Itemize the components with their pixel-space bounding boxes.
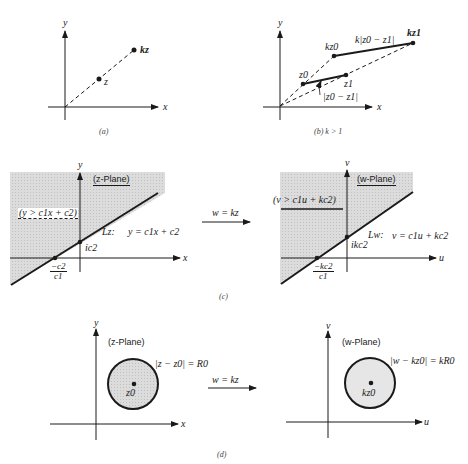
axis-label-x: x — [377, 102, 381, 112]
point-kz — [132, 48, 137, 53]
axis-label-y: y — [278, 18, 282, 28]
axis-label-u: u — [424, 417, 429, 427]
label-ikc2: ikc2 — [351, 240, 368, 250]
line-name-Lz: Lz: — [102, 227, 115, 237]
axis-label-x: x — [183, 253, 187, 263]
label-ic2: ic2 — [85, 243, 97, 253]
point-u-intercept — [315, 256, 320, 261]
region-label-w: (v > c1u + kc2) — [273, 195, 336, 205]
label-center-z0: z0 — [126, 388, 135, 398]
panel-d-right — [286, 331, 422, 438]
point-kz1 — [411, 41, 416, 46]
line-equation-w: v = c1u + kc2 — [392, 231, 448, 241]
label-u-intercept: −kc2 c1 — [313, 262, 334, 282]
label-length: |z0 − z1| — [323, 92, 358, 102]
map-label-c: w = kz — [212, 208, 239, 218]
axis-label-y: y — [94, 318, 98, 328]
point-z0 — [301, 82, 306, 87]
label-z: z — [104, 77, 108, 87]
plane-label-z: (z-Plane) — [93, 175, 130, 186]
point-z1 — [344, 73, 349, 78]
plane-label-w: (w-Plane) — [342, 338, 381, 347]
axis-label-y: y — [63, 18, 67, 28]
center-z0 — [132, 382, 137, 387]
center-kz0 — [369, 381, 374, 386]
caption-d: (d) — [217, 450, 226, 459]
axis-label-y: y — [78, 160, 82, 170]
point-ic2 — [78, 240, 83, 245]
region-label-z: (y > c1x + c2) — [18, 208, 78, 219]
axis-label-x: x — [163, 102, 167, 112]
label-center-kz0: kz0 — [362, 388, 375, 398]
axis-label-v: v — [326, 321, 330, 331]
line-equation-z: y = c1x + c2 — [128, 227, 179, 237]
point-z — [97, 77, 102, 82]
circle-equation-w: |w − kz0| = kR0 — [390, 356, 455, 366]
axis-label-u: u — [439, 253, 444, 263]
circle-equation-z: |z − z0| = R0 — [155, 359, 208, 369]
point-ikc2 — [345, 235, 350, 240]
caption-b: (b) k > 1 — [314, 127, 342, 136]
label-kz: kz — [140, 45, 149, 55]
label-z1: z1 — [344, 79, 353, 89]
point-kz0 — [332, 54, 337, 59]
label-kz0: kz0 — [325, 42, 338, 52]
label-scaled-length: k|z0 − z1| — [355, 35, 394, 45]
caption-a: (a) — [99, 127, 108, 136]
map-label-d: w = kz — [212, 375, 239, 385]
segment-z0-z1 — [303, 75, 346, 84]
axis-label-v: v — [345, 158, 349, 168]
label-x-intercept: −c2 c1 — [50, 262, 67, 282]
point-x-intercept — [53, 256, 58, 261]
caption-c: (c) — [219, 292, 228, 301]
leader-arrow — [319, 81, 321, 95]
axis-label-x: x — [181, 419, 185, 429]
panel-c-right — [280, 170, 436, 284]
plane-label-z: (z-Plane) — [108, 338, 145, 347]
label-kz1: kz1 — [407, 28, 421, 38]
label-z0: z0 — [299, 70, 308, 80]
line-name-Lw: Lw: — [368, 230, 384, 240]
plane-label-w: (w-Plane) — [357, 175, 396, 186]
